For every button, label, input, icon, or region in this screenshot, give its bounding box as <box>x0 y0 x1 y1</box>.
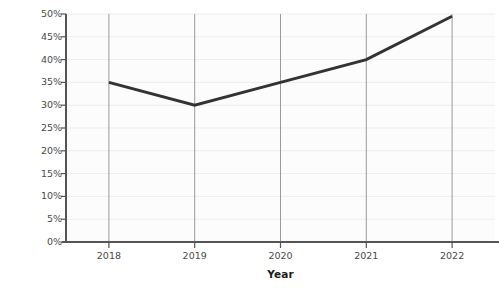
x-axis-title: Year <box>66 268 495 280</box>
x-axis-tick-label: 2019 <box>165 250 225 261</box>
x-axis-tick-labels: 20182019202020212022 <box>0 0 499 288</box>
y-axis-title: Gross profit percentage <box>2 0 20 26</box>
x-axis-tick-label: 2021 <box>336 250 396 261</box>
y-axis-title-wrapper: Gross profit percentage <box>2 8 20 256</box>
x-axis-tick-label: 2020 <box>251 250 311 261</box>
x-axis-tick-label: 2022 <box>422 250 482 261</box>
x-axis-tick-label: 2018 <box>79 250 139 261</box>
chart-container: 0%5%10%15%20%25%30%35%40%45%50% 20182019… <box>0 0 499 288</box>
